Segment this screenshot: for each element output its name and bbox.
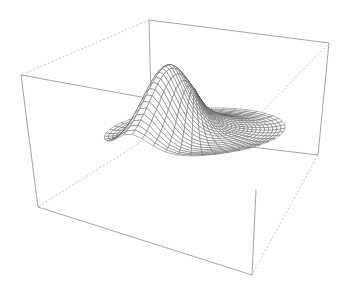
box-edge-bottom-left [38, 207, 252, 275]
box-edge-top-front-right [256, 43, 329, 118]
box-edge-top-back [149, 20, 329, 43]
surface-plot [0, 0, 345, 295]
mesh-cell [268, 127, 272, 130]
box-edge-bottom-right [252, 155, 318, 275]
plot-canvas [0, 0, 345, 295]
wireframe-mesh [104, 65, 285, 156]
mesh-cell [260, 128, 264, 131]
box-edge-right-vertical [318, 43, 329, 155]
box-edge-front-vertical [252, 190, 256, 275]
mesh-cell [191, 155, 204, 156]
box-edge-top-left [21, 20, 149, 75]
box-edge-back-bottom-left [38, 135, 152, 207]
box-edge-left-vertical [21, 75, 38, 207]
mesh-cell [264, 127, 268, 130]
